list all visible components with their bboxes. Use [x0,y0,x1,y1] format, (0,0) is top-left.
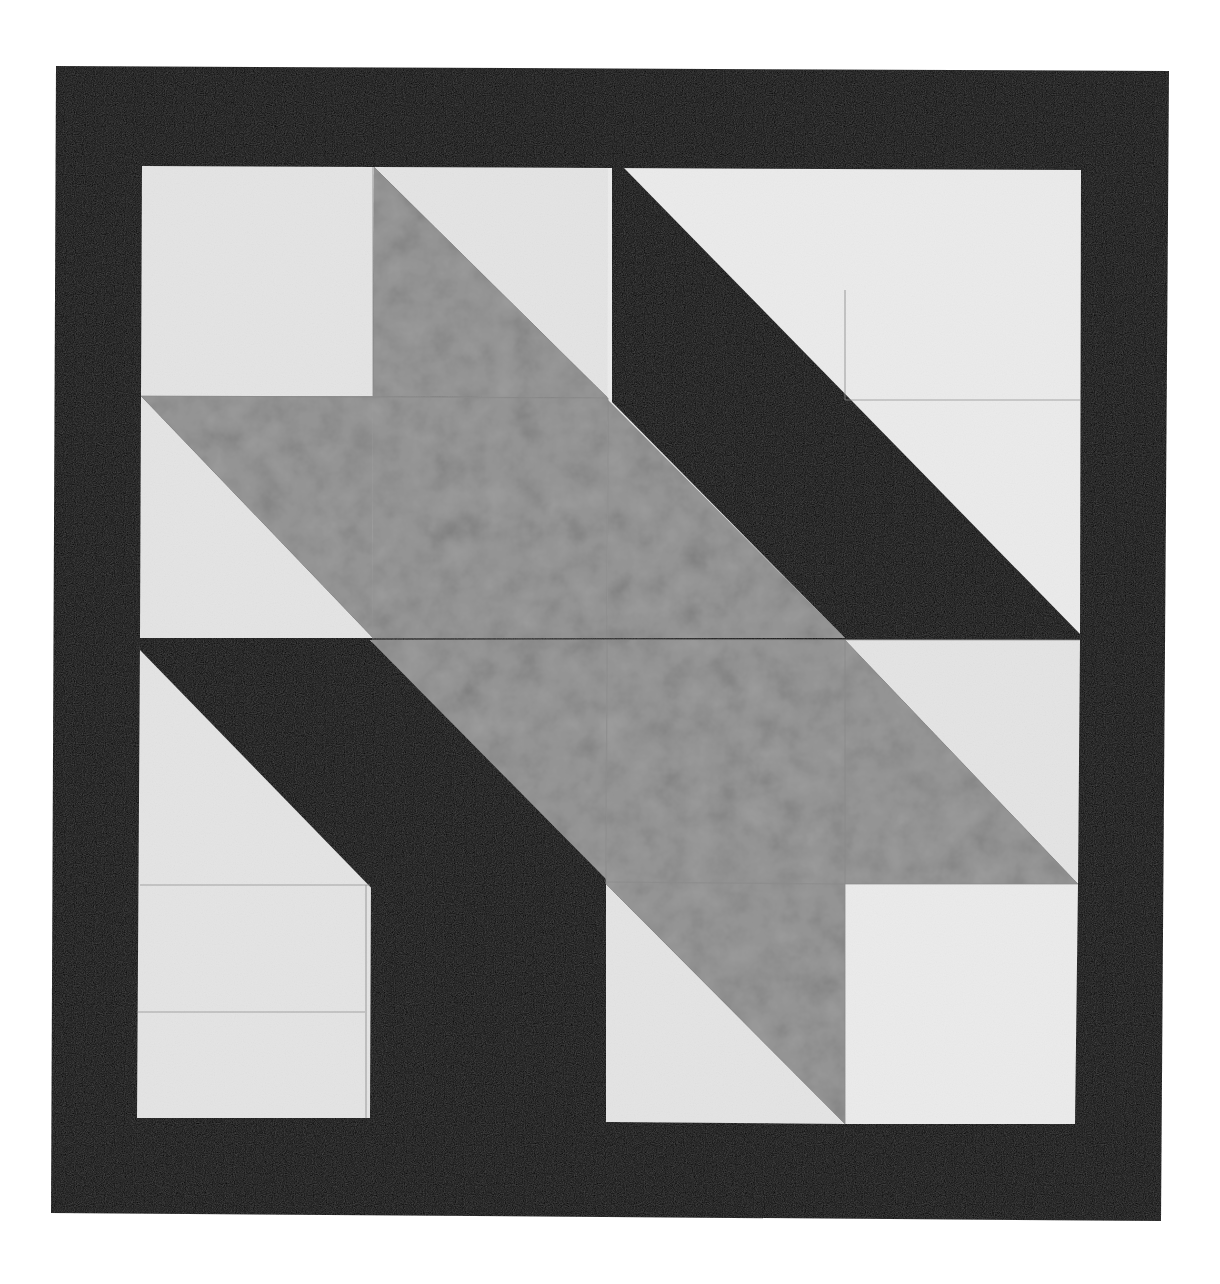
quilt-photo [0,0,1220,1284]
light-square-r4c4 [845,884,1078,1124]
light-square-r1c1 [141,166,374,396]
gray-square-r3c3 [606,640,845,884]
quilt-pieces [137,166,1081,1124]
gray-square-r2c2 [372,396,608,638]
